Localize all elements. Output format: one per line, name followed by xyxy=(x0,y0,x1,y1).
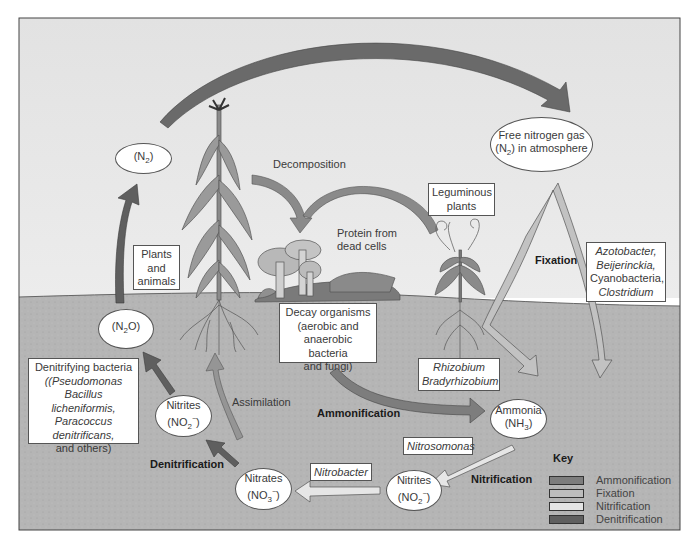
label-assimilation: Assimilation xyxy=(232,396,291,409)
n2-prefix: (N xyxy=(134,150,146,162)
box-plants-and-animals: Plants and animals xyxy=(133,245,180,290)
label-decomposition: Decomposition xyxy=(273,158,346,171)
legend-key: Key Ammonification Fixation Nitrificatio… xyxy=(549,452,679,530)
decay-line2: (aerobic and xyxy=(283,320,373,334)
box-leguminous-plants: Leguminous plants xyxy=(428,183,495,216)
plants-animals-line2: and xyxy=(137,262,176,276)
legend-item-ammonification: Ammonification xyxy=(549,474,671,486)
free-n2-line2-prefix: (N xyxy=(495,142,507,154)
legend-label-ammonification: Ammonification xyxy=(596,474,671,486)
legend-swatch-denitrification xyxy=(549,515,584,524)
label-protein-dead-cells: Protein from dead cells xyxy=(337,227,397,253)
protein-line1: Protein from xyxy=(337,227,397,240)
rhizobium-line1: Rhizobium xyxy=(422,361,496,375)
legend-label-denitrification: Denitrification xyxy=(596,513,663,525)
fixers-line2: Beijerinckia, xyxy=(590,259,662,273)
nitrates-suffix: ) xyxy=(276,489,280,501)
leguminous-line2: plants xyxy=(432,200,491,214)
label-fixation: Fixation xyxy=(535,254,577,267)
label-nitrification: Nitrification xyxy=(471,473,532,486)
nitrites-right-prefix: (NO xyxy=(398,490,418,502)
box-nitrobacter: Nitrobacter xyxy=(310,463,372,481)
label-ammonification: Ammonification xyxy=(317,407,400,420)
nitrites-right-suffix: ) xyxy=(427,490,431,502)
legend-item-nitrification: Nitrification xyxy=(549,500,650,512)
denitrifying-line4: Paracoccus xyxy=(32,415,135,429)
denitrifying-line2-text: (Pseudomonas xyxy=(48,375,122,387)
legend-swatch-ammonification xyxy=(549,476,584,485)
box-denitrifying-bacteria: Denitrifying bacteria ((Pseudomonas Baci… xyxy=(28,358,139,444)
fixers-line4: Clostridium xyxy=(590,286,662,300)
legend-title: Key xyxy=(553,452,573,464)
legend-item-fixation: Fixation xyxy=(549,487,635,499)
ammonia-prefix: (NH xyxy=(505,417,525,429)
n2o-suffix: O) xyxy=(128,320,140,332)
nitrates-prefix: (NO xyxy=(247,489,267,501)
legend-swatch-fixation xyxy=(549,489,584,498)
box-decay-organisms: Decay organisms (aerobic and anaerobic b… xyxy=(279,303,377,363)
leguminous-line1: Leguminous xyxy=(432,186,491,200)
fixers-line3: Cyanobacteria, xyxy=(590,272,662,286)
decay-line3: anaerobic bacteria xyxy=(283,333,373,360)
box-rhizobium: Rhizobium Bradyrhizobium xyxy=(418,358,500,391)
nitrites-left-line1: Nitrites xyxy=(166,399,200,412)
nitrates-sub: 3 xyxy=(267,495,271,504)
nitrites-left-suffix: ) xyxy=(196,416,200,428)
denitrifying-line6: and others) xyxy=(32,442,135,456)
free-n2-line2-suffix: ) in atmosphere xyxy=(511,142,587,154)
node-nitrates: Nitrates (NO3−) xyxy=(235,468,292,510)
label-denitrification: Denitrification xyxy=(150,458,224,471)
node-free-nitrogen-gas: Free nitrogen gas (N2) in atmosphere xyxy=(490,117,593,172)
nitrites-right-line1: Nitrites xyxy=(397,474,431,487)
denitrifying-line3: Bacillus licheniformis, xyxy=(32,388,135,415)
legend-swatch-nitrification xyxy=(549,502,584,511)
ammonia-line1: Ammonia xyxy=(495,404,541,417)
box-fixing-bacteria: Azotobacter, Beijerinckia, Cyanobacteria… xyxy=(586,242,666,302)
free-n2-line1: Free nitrogen gas xyxy=(498,129,584,142)
protein-line2: dead cells xyxy=(337,240,397,253)
node-nitrites-right: Nitrites (NO2−) xyxy=(386,470,442,511)
decay-line1: Decay organisms xyxy=(283,306,373,320)
nitrogen-cycle-diagram: (N2) Free nitrogen gas (N2) in atmospher… xyxy=(0,0,693,544)
plants-animals-line1: Plants xyxy=(137,248,176,262)
rhizobium-line2: Bradyrhizobium xyxy=(422,375,496,389)
legend-label-fixation: Fixation xyxy=(596,487,635,499)
nitrates-line1: Nitrates xyxy=(245,472,283,485)
legend-label-nitrification: Nitrification xyxy=(596,500,650,512)
denitrifying-line2: ((Pseudomonas xyxy=(32,375,135,389)
n2o-prefix: (N xyxy=(112,320,124,332)
ammonia-suffix: ) xyxy=(529,417,533,429)
node-n2o: (N2O) xyxy=(98,309,154,349)
legend-item-denitrification: Denitrification xyxy=(549,513,663,525)
plants-animals-line3: animals xyxy=(137,275,176,289)
node-nitrites-left: Nitrites (NO2−) xyxy=(155,395,212,437)
nitrites-left-sub: 2 xyxy=(187,422,191,431)
denitrifying-line1: Denitrifying bacteria xyxy=(32,361,135,375)
box-nitrosomonas: Nitrosomonas xyxy=(403,437,473,455)
node-ammonia: Ammonia (NH3) xyxy=(490,399,547,439)
n2-suffix: ) xyxy=(150,150,154,162)
decay-line4: and fungi) xyxy=(283,360,373,374)
fixers-line1: Azotobacter, xyxy=(590,245,662,259)
node-n2: (N2) xyxy=(115,143,172,174)
nitrites-right-sub: 2 xyxy=(418,496,422,505)
denitrifying-line5: denitrificans, xyxy=(32,429,135,443)
nitrites-left-prefix: (NO xyxy=(167,416,187,428)
